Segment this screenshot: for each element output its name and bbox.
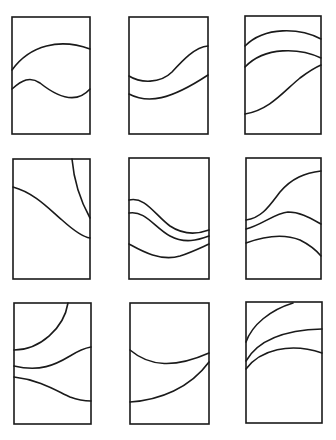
- panel-5: [129, 158, 209, 279]
- wave-curve: [72, 159, 90, 218]
- wave-curve: [246, 329, 322, 361]
- panel-frame: [14, 303, 91, 424]
- wave-curve: [129, 199, 209, 233]
- panel-7: [14, 303, 91, 424]
- wave-curve: [130, 362, 209, 402]
- panel-grid: [12, 16, 322, 424]
- diagram-canvas: [0, 0, 336, 440]
- wave-curve: [14, 303, 68, 350]
- panel-8: [130, 303, 209, 424]
- panel-frame: [246, 302, 322, 423]
- wave-curve: [12, 79, 90, 97]
- wave-curve: [246, 236, 321, 256]
- wave-curve: [129, 244, 209, 258]
- panel-1: [12, 17, 90, 134]
- wave-curve: [245, 65, 321, 114]
- wave-curve: [245, 51, 321, 67]
- wave-curve: [246, 303, 293, 342]
- wave-curve: [246, 212, 321, 229]
- wave-curve: [13, 187, 90, 238]
- panel-frame: [13, 159, 90, 279]
- wave-curve: [14, 377, 91, 401]
- wave-curve: [129, 46, 208, 81]
- panel-6: [246, 158, 321, 279]
- panel-4: [13, 159, 90, 279]
- panel-9: [246, 302, 322, 423]
- panel-frame: [12, 17, 90, 134]
- panel-3: [245, 16, 321, 134]
- wave-curve: [14, 347, 91, 368]
- wave-curve: [246, 348, 322, 369]
- wave-curve: [130, 350, 209, 364]
- panel-2: [129, 17, 208, 134]
- wave-curve: [129, 75, 208, 99]
- wave-curve: [129, 213, 209, 241]
- wave-curve: [245, 31, 321, 46]
- panel-frame: [129, 158, 209, 279]
- wave-curve: [12, 44, 90, 70]
